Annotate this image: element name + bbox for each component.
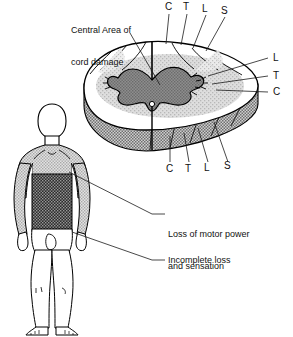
segment-label-top-t: T [183,2,189,12]
body-left-hand [18,232,28,251]
body-left-arm [14,163,31,238]
leader-top-c [166,14,169,44]
segment-label-top-s: S [221,6,228,16]
leader-top-s [206,17,225,51]
central-damage-caption-line1: Central Area of [71,25,131,36]
loss-of-motor-power-caption: Loss of motor power and sensation [168,208,250,292]
segment-label-bottom-l: L [204,163,210,173]
body-right-leg [52,250,73,328]
loss-of-motor-power-line1: Loss of motor power [168,229,250,240]
segment-label-bottom-c: C [166,164,173,174]
leader-top-t [181,14,187,45]
body-left-foot [26,327,48,335]
segment-label-right-t: T [273,71,279,81]
segment-label-right-c: C [273,87,280,97]
leader-top-l [193,15,206,48]
central-damage-caption-line2: cord damage [71,57,131,68]
segment-label-right-l: L [273,53,279,63]
central-canal [149,101,154,106]
segment-label-top-c: C [165,2,172,12]
spinal-cord-syndrome-diagram: Central Area of cord damage C T L S L T … [0,0,293,337]
human-body-figure [14,104,90,335]
body-right-arm [73,163,90,238]
central-damage-caption: Central Area of cord damage [71,4,131,88]
body-right-hand [76,232,86,251]
segment-label-bottom-t: T [185,164,191,174]
body-torso-severe-loss [32,174,72,231]
segment-label-top-l: L [202,4,208,14]
incomplete-loss-caption: Incomplete loss [168,255,231,266]
segment-label-bottom-s: S [224,161,231,171]
body-right-foot [56,327,78,335]
body-upper-chest-partial [33,158,71,176]
body-head [38,104,66,138]
